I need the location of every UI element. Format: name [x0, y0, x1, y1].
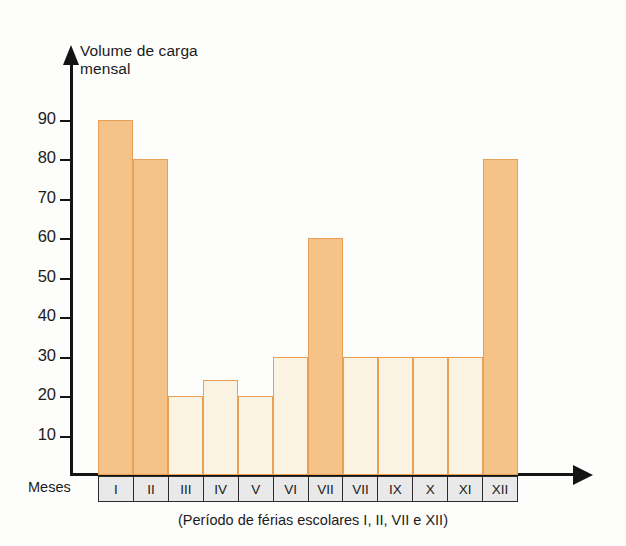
bar-ix-8 [378, 357, 413, 476]
y-axis-tick-label: 60 [16, 227, 56, 246]
y-axis-tick [60, 120, 72, 122]
y-axis-title-line1: Volume de carga [80, 42, 198, 59]
bar-ii-1 [133, 159, 168, 475]
y-axis-tick-label-wrap: 60 [12, 238, 56, 239]
bar-vii-7 [343, 357, 378, 476]
month-label-row: IIIIIIIVVVIVIIVIIIXXXIXII [98, 476, 518, 502]
bar-x-9 [413, 357, 448, 476]
y-axis-tick [60, 199, 72, 201]
y-axis-tick [60, 317, 72, 319]
bar-iv-3 [203, 380, 238, 475]
month-cell-3: III [169, 477, 204, 501]
y-axis-tick-label-wrap: 90 [12, 120, 56, 121]
y-axis-tick-label: 70 [16, 188, 56, 207]
y-axis-tick-label-wrap: 20 [12, 396, 56, 397]
y-axis-tick [60, 357, 72, 359]
month-cell-10: X [413, 477, 448, 501]
month-cell-12: XII [483, 477, 517, 501]
bar-i-0 [98, 120, 133, 476]
bar-v-4 [238, 396, 273, 475]
y-axis-tick-label-wrap: 30 [12, 357, 56, 358]
bar-chart: Volume de carga mensal 90807060504030201… [0, 0, 626, 546]
y-axis-tick-label: 20 [16, 385, 56, 404]
y-axis-tick-label-wrap: 50 [12, 278, 56, 279]
y-axis-tick-label: 80 [16, 148, 56, 167]
month-cell-2: II [134, 477, 169, 501]
y-axis-tick-label-wrap: 40 [12, 317, 56, 318]
y-axis-tick-label-wrap: 80 [12, 159, 56, 160]
bar-iii-2 [168, 396, 203, 475]
plot-area [98, 62, 518, 475]
y-axis-tick-label: 50 [16, 267, 56, 286]
month-cell-5: V [239, 477, 274, 501]
bar-vii-6 [308, 238, 343, 475]
month-cell-9: IX [378, 477, 413, 501]
y-axis-tick [60, 159, 72, 161]
y-axis-tick [60, 238, 72, 240]
y-axis-tick-label: 30 [16, 346, 56, 365]
month-cell-6: VI [274, 477, 309, 501]
y-axis-tick [60, 278, 72, 280]
bar-vi-5 [273, 357, 308, 476]
x-axis-arrow-icon [573, 465, 593, 485]
month-cell-7: VII [309, 477, 344, 501]
chart-caption: (Período de férias escolares I, II, VII … [0, 512, 626, 528]
y-axis-tick [60, 396, 72, 398]
y-axis-tick-label: 40 [16, 306, 56, 325]
month-cell-4: IV [204, 477, 239, 501]
month-cell-8: VII [343, 477, 378, 501]
y-axis-tick-label: 10 [16, 425, 56, 444]
y-axis-tick-label: 90 [16, 109, 56, 128]
x-axis-label: Meses [28, 479, 71, 495]
bar-xii-11 [483, 159, 518, 475]
y-axis-line [70, 62, 73, 476]
y-axis-tick-label-wrap: 70 [12, 199, 56, 200]
y-axis-tick-label-wrap: 10 [12, 436, 56, 437]
month-cell-1: I [99, 477, 134, 501]
bar-xi-10 [448, 357, 483, 476]
month-cell-11: XI [448, 477, 483, 501]
y-axis-tick [60, 436, 72, 438]
